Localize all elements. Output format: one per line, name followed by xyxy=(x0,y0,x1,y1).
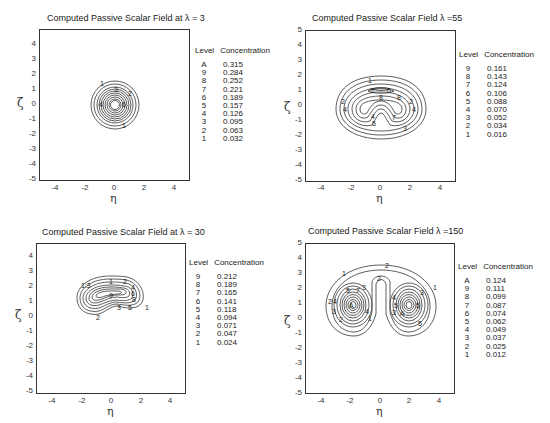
y-tick: 2 xyxy=(288,70,302,79)
x-tick: 0 xyxy=(372,396,388,405)
svg-text:4: 4 xyxy=(333,298,337,305)
svg-text:A: A xyxy=(349,302,354,309)
legend-concentration-header: Concentration xyxy=(208,258,264,267)
svg-text:3: 3 xyxy=(332,308,336,315)
level-legend: LevelConcentration A0.124 90.111 80.099 … xyxy=(458,262,533,359)
y-tick: 3 xyxy=(19,266,33,275)
y-tick: -5 xyxy=(288,388,302,397)
y-axis-label: ζ xyxy=(15,308,22,322)
y-axis-label: ζ xyxy=(284,314,291,328)
y-tick: -2 xyxy=(288,130,302,139)
svg-text:5: 5 xyxy=(418,320,422,327)
x-tick: -4 xyxy=(44,396,60,405)
svg-text:1:3: 1:3 xyxy=(81,282,91,289)
plot-title: Computed Passive Scalar Field at λ = 3 xyxy=(47,13,205,23)
x-tick: 4 xyxy=(431,396,447,405)
y-tick: 3 xyxy=(288,268,302,277)
y-tick: 3 xyxy=(288,55,302,64)
x-tick: 0 xyxy=(106,183,122,192)
x-tick: -2 xyxy=(77,183,93,192)
svg-text:4: 4 xyxy=(412,106,416,113)
svg-text:3: 3 xyxy=(362,284,366,291)
level-legend: LevelConcentration 90.212 80.189 70.165 … xyxy=(189,258,264,347)
svg-text:2: 2 xyxy=(409,98,413,105)
svg-text:2: 2 xyxy=(328,298,332,305)
y-tick: -3 xyxy=(22,144,36,153)
y-axis-label: ζ xyxy=(17,96,24,110)
y-tick: -4 xyxy=(22,159,36,168)
x-tick: 0 xyxy=(103,396,119,405)
y-tick: -1 xyxy=(288,115,302,124)
y-tick: -2 xyxy=(19,341,33,350)
svg-text:A: A xyxy=(400,310,405,317)
x-tick: -4 xyxy=(313,396,329,405)
y-tick: -1 xyxy=(288,328,302,337)
contour-lines: 1 2 1:3 4 6 9 8 3 5 1 2 xyxy=(37,244,187,395)
y-tick: -4 xyxy=(19,371,33,380)
svg-text:4: 4 xyxy=(99,101,103,108)
svg-text:8: 8 xyxy=(379,94,383,101)
contour-lines: 1 3 2 4 6 1 xyxy=(40,30,191,182)
plot-title: Computed Passive Scalar Field λ =55 xyxy=(312,13,462,23)
svg-text:4: 4 xyxy=(343,106,347,113)
legend-row: 10.032 xyxy=(195,135,270,143)
x-tick: 2 xyxy=(402,183,418,192)
y-tick: 1 xyxy=(19,296,33,305)
x-tick: 2 xyxy=(133,396,149,405)
svg-text:1: 1 xyxy=(342,270,346,277)
x-axis-label: η xyxy=(376,192,383,205)
svg-text:1: 1 xyxy=(145,304,149,311)
y-tick: 1 xyxy=(288,298,302,307)
y-tick: -2 xyxy=(288,343,302,352)
svg-text:6: 6 xyxy=(387,87,391,94)
y-tick: 4 xyxy=(288,40,302,49)
legend-concentration-header: Concentration xyxy=(477,262,533,271)
svg-text:2: 2 xyxy=(341,98,345,105)
svg-text:1: 1 xyxy=(109,278,113,285)
svg-text:6: 6 xyxy=(122,101,126,108)
legend-row: 10.012 xyxy=(458,351,533,359)
svg-text:7: 7 xyxy=(356,287,360,294)
svg-text:1: 1 xyxy=(122,122,126,129)
svg-text:3: 3 xyxy=(403,125,407,132)
svg-text:7: 7 xyxy=(392,114,396,121)
x-axis-label: η xyxy=(110,192,117,205)
x-tick: 2 xyxy=(136,183,152,192)
y-tick: -3 xyxy=(19,356,33,365)
legend-level-header: Level xyxy=(195,46,214,55)
y-tick: -3 xyxy=(288,358,302,367)
plot-area: 1 2 2 1 2 4 5 7 3 A 4 3 2 1 4 5 3 A 5 3 xyxy=(305,243,455,394)
svg-text:4: 4 xyxy=(392,294,396,301)
svg-text:3: 3 xyxy=(114,86,118,93)
svg-text:3: 3 xyxy=(420,289,424,296)
legend-level-header: Level xyxy=(458,262,477,271)
svg-text:5: 5 xyxy=(128,304,132,311)
x-tick: -4 xyxy=(47,183,63,192)
y-tick: -5 xyxy=(19,386,33,395)
x-tick: -4 xyxy=(313,183,329,192)
contour-lines: 1 5 6 8 8 2 4 4 5 7 2 4 3 xyxy=(306,31,457,183)
legend-row: 10.016 xyxy=(459,131,534,139)
svg-text:4: 4 xyxy=(371,113,375,120)
legend-level-header: Level xyxy=(459,50,478,59)
plot-area: 1 5 6 8 8 2 4 4 5 7 2 4 3 xyxy=(305,30,456,182)
x-tick: 2 xyxy=(401,396,417,405)
plot-area: 1 2 1:3 4 6 9 8 3 5 1 2 xyxy=(36,243,186,394)
y-tick: 4 xyxy=(22,39,36,48)
svg-text:4: 4 xyxy=(365,308,369,315)
y-tick: 2 xyxy=(288,283,302,292)
x-axis-label: η xyxy=(376,405,383,418)
x-tick: -2 xyxy=(343,183,359,192)
y-tick: -3 xyxy=(288,145,302,154)
svg-text:9: 9 xyxy=(109,292,113,299)
svg-text:5: 5 xyxy=(416,302,420,309)
y-tick: 5 xyxy=(288,238,302,247)
svg-text:5: 5 xyxy=(370,87,374,94)
y-tick: -4 xyxy=(288,373,302,382)
level-legend: LevelConcentration 90.161 80.143 70.124 … xyxy=(459,50,534,139)
y-axis-label: ζ xyxy=(284,100,291,114)
y-tick: -4 xyxy=(288,160,302,169)
svg-text:1: 1 xyxy=(368,315,372,322)
svg-text:5: 5 xyxy=(346,287,350,294)
y-tick: 0 xyxy=(22,99,36,108)
